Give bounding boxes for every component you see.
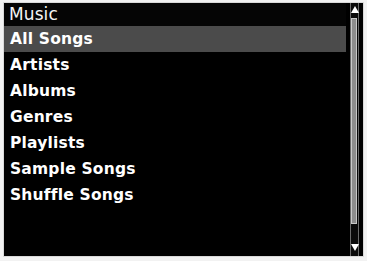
list-item-label: All Songs xyxy=(10,30,93,48)
list-item-artists[interactable]: Artists xyxy=(4,52,363,78)
list-item-label: Albums xyxy=(10,82,76,100)
menu-list[interactable]: All Songs Artists Albums Genres Playlist… xyxy=(4,26,363,256)
vertical-scrollbar[interactable] xyxy=(346,3,363,256)
list-item-label: Artists xyxy=(10,56,70,74)
list-item-all-songs[interactable]: All Songs xyxy=(4,26,363,52)
list-item-label: Shuffle Songs xyxy=(10,186,134,204)
list-item-label: Genres xyxy=(10,108,73,126)
list-item-sample-songs[interactable]: Sample Songs xyxy=(4,156,363,182)
page-title: Music xyxy=(9,4,58,25)
music-menu-screen: Music All Songs Artists Albums Genres Pl… xyxy=(3,2,364,257)
list-item-albums[interactable]: Albums xyxy=(4,78,363,104)
list-item-label: Sample Songs xyxy=(10,160,136,178)
screenshot-root: Music All Songs Artists Albums Genres Pl… xyxy=(0,0,367,261)
list-item-playlists[interactable]: Playlists xyxy=(4,130,363,156)
triangle-up-icon[interactable] xyxy=(350,6,359,15)
titlebar: Music xyxy=(4,3,363,26)
scrollbar-thumb[interactable] xyxy=(351,18,357,224)
list-item-shuffle-songs[interactable]: Shuffle Songs xyxy=(4,182,363,208)
list-item-label: Playlists xyxy=(10,134,85,152)
triangle-down-icon[interactable] xyxy=(350,244,359,253)
list-item-genres[interactable]: Genres xyxy=(4,104,363,130)
